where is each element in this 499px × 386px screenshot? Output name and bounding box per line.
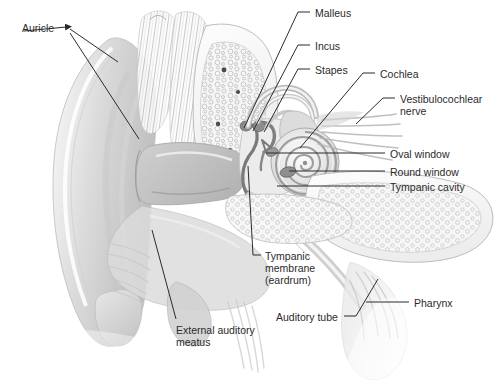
label-oval_window: Oval window — [390, 148, 450, 161]
label-tympanic_cavity: Tympanic cavity — [390, 181, 465, 194]
label-cochlea: Cochlea — [380, 68, 419, 81]
label-external_meatus: External auditory — [176, 324, 255, 337]
label-auditory_tube: Auditory tube — [276, 311, 338, 324]
label-external_meatus_2: meatus — [176, 336, 210, 349]
external-auditory-meatus — [136, 143, 247, 205]
label-pharynx: Pharynx — [414, 297, 453, 310]
label-auricle: Auricle — [22, 22, 54, 35]
label-tympanic_membrane_2: membrane — [265, 262, 315, 275]
label-incus: Incus — [315, 40, 340, 53]
label-vestibulocochlear_2: nerve — [400, 105, 426, 118]
label-vestibulocochlear: Vestibulocochlear — [400, 93, 482, 106]
ear-anatomy-figure: AuricleMalleusIncusStapesCochleaVestibul… — [0, 0, 499, 386]
label-tympanic_membrane: Tympanic — [265, 250, 310, 263]
label-stapes: Stapes — [315, 64, 348, 77]
label-malleus: Malleus — [315, 7, 351, 20]
label-round_window: Round window — [390, 166, 459, 179]
label-tympanic_membrane_3: (eardrum) — [265, 274, 311, 287]
